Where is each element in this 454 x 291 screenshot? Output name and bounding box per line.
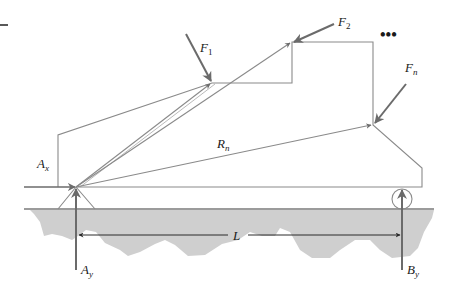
- label-ax: Ax: [36, 156, 49, 173]
- label-by: By: [407, 262, 419, 279]
- label-fn: Fn: [404, 60, 418, 77]
- ground-hatch-fill: [30, 210, 434, 258]
- f2-force-arrow: [294, 24, 334, 42]
- ground: [24, 209, 434, 258]
- position-vector-r1: [76, 84, 210, 187]
- label-f2: F2: [337, 14, 350, 31]
- label-ellipsis: •••: [380, 26, 397, 43]
- label-rn: Rn: [216, 136, 230, 153]
- label-l: L: [232, 228, 240, 243]
- label-ay: Ay: [80, 262, 93, 279]
- rigid-body-outline: [58, 42, 422, 187]
- label-f1: F1: [199, 40, 212, 57]
- free-body-diagram: F1 F2 ••• Fn Rn Ax Ay By L: [0, 0, 454, 291]
- fn-force-arrow: [375, 84, 406, 123]
